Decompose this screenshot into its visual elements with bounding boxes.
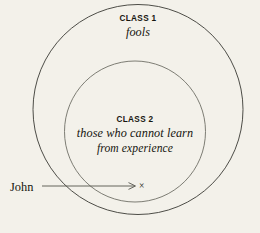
class1-description: fools [86, 25, 190, 39]
arrow-right-icon [42, 183, 136, 190]
class1-heading: CLASS 1 [86, 14, 190, 24]
venn-diagram: CLASS 1 fools CLASS 2 those who cannot l… [0, 0, 260, 233]
class2-description-line-2: from experience [62, 142, 208, 156]
class2-label-group: CLASS 2 those who cannot learn from expe… [62, 115, 208, 156]
john-annotation-label: John [10, 180, 33, 195]
class1-label-group: CLASS 1 fools [86, 14, 190, 39]
class2-heading: CLASS 2 [62, 115, 208, 125]
class2-description-line-1: those who cannot learn [62, 126, 208, 141]
john-point-marker: × [139, 181, 144, 191]
